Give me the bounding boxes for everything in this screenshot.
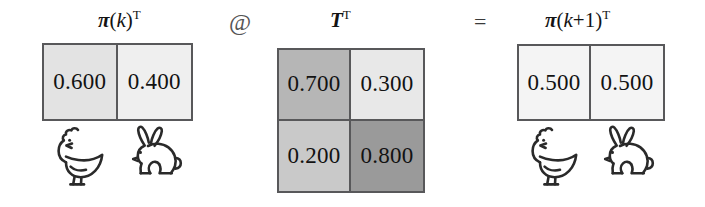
rabbit-icon xyxy=(591,124,665,182)
transition-matrix: 0.700 0.300 0.200 0.800 xyxy=(277,48,425,193)
t-symbol: T xyxy=(330,8,343,32)
state-vector-k1-matrix: 0.500 0.500 xyxy=(517,44,665,121)
state-vector-k1-icon-row xyxy=(517,124,665,186)
plus-sign: + xyxy=(573,8,585,32)
pi-k-transpose-label: π(k)T xyxy=(98,8,141,31)
equals-operator: = xyxy=(474,11,486,33)
matrix-cell: 0.500 xyxy=(591,46,663,119)
transpose-superscript: T xyxy=(343,7,351,22)
t-transpose-label: TT xyxy=(330,8,351,31)
rabbit-icon xyxy=(118,124,193,182)
k-variable: k xyxy=(116,8,125,32)
matrix-cell: 0.500 xyxy=(519,46,591,119)
matrix-cell: 0.200 xyxy=(279,121,351,192)
chicken-icon xyxy=(42,124,118,186)
matmul-operator: @ xyxy=(229,10,251,34)
matrix-cell: 0.700 xyxy=(279,50,351,121)
chicken-icon xyxy=(517,124,591,186)
markov-equation-figure: π(k)T @ TT = π(k+1)T 0.600 0.400 xyxy=(0,0,705,207)
pi-k-plus-1-transpose-label: π(k+1)T xyxy=(545,8,610,31)
transpose-superscript: T xyxy=(133,7,141,22)
state-vector-k-icon-row xyxy=(42,124,193,186)
k-variable: k xyxy=(563,8,572,32)
close-paren: ) xyxy=(126,8,133,32)
state-vector-k-matrix: 0.600 0.400 xyxy=(42,43,193,121)
matrix-cell: 0.300 xyxy=(351,50,423,121)
matrix-cell: 0.600 xyxy=(44,45,118,119)
pi-symbol: π xyxy=(98,8,109,32)
pi-symbol: π xyxy=(545,8,556,32)
transpose-superscript: T xyxy=(602,7,610,22)
matrix-cell: 0.800 xyxy=(351,121,423,192)
one-literal: 1 xyxy=(585,8,596,32)
matrix-cell: 0.400 xyxy=(118,45,192,119)
